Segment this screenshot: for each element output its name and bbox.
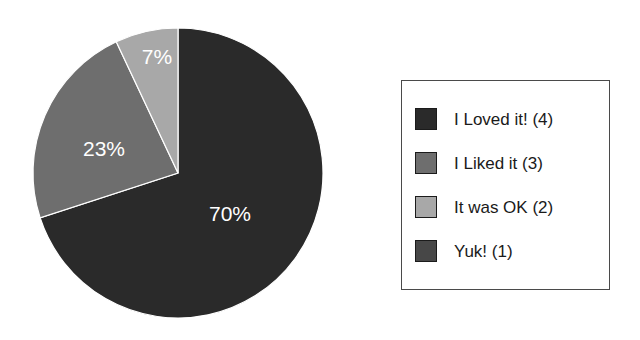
legend-item[interactable]: It was OK (2) xyxy=(402,187,609,227)
legend-item-label: I Loved it! (4) xyxy=(454,111,553,128)
pie-slice-value-label: 7% xyxy=(142,45,172,68)
legend-item[interactable]: Yuk! (1) xyxy=(402,231,609,271)
pie-slice-value-label: 70% xyxy=(209,202,251,225)
legend-color-swatch xyxy=(415,240,437,262)
pie-chart-figure: 70%23%7% I Loved it! (4)I Liked it (3)It… xyxy=(0,0,640,340)
legend-item-label: Yuk! (1) xyxy=(454,243,513,260)
legend-item-label: I Liked it (3) xyxy=(454,155,543,172)
pie-chart-plot-area: 70%23%7% xyxy=(33,28,323,318)
legend-item-label: It was OK (2) xyxy=(454,199,553,216)
chart-legend: I Loved it! (4)I Liked it (3)It was OK (… xyxy=(401,80,610,290)
legend-color-swatch xyxy=(415,152,437,174)
legend-item[interactable]: I Loved it! (4) xyxy=(402,99,609,139)
legend-item[interactable]: I Liked it (3) xyxy=(402,143,609,183)
pie-slice-value-label: 23% xyxy=(83,137,125,160)
pie-chart-svg: 70%23%7% xyxy=(33,28,323,318)
pie-slice-group xyxy=(33,28,323,318)
legend-color-swatch xyxy=(415,108,437,130)
legend-color-swatch xyxy=(415,196,437,218)
